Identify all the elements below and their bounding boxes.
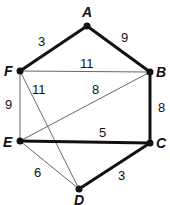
weight-F-E: 9 <box>5 97 12 112</box>
edge-F-B <box>20 71 150 72</box>
edge-E-C <box>20 141 150 143</box>
edge-D-C <box>79 143 150 189</box>
weight-A-B: 9 <box>121 30 128 45</box>
node-label-E: E <box>3 134 13 150</box>
weight-D-C: 3 <box>118 168 125 183</box>
node-E <box>17 138 24 145</box>
node-label-F: F <box>4 63 13 79</box>
node-label-A: A <box>81 4 92 20</box>
node-label-B: B <box>156 64 166 80</box>
node-C <box>147 140 154 147</box>
weight-F-B: 11 <box>80 56 94 71</box>
node-B <box>147 69 154 76</box>
weight-E-D: 6 <box>34 165 41 180</box>
node-A <box>84 23 91 30</box>
edge-E-D <box>20 141 79 189</box>
weight-F-A: 3 <box>38 34 45 49</box>
graph-diagram: A B C D E F 3 9 11 11 8 9 8 5 6 3 <box>0 0 170 205</box>
weight-E-C: 5 <box>99 125 106 140</box>
weight-F-D: 11 <box>32 82 46 97</box>
edge-F-D <box>20 71 79 189</box>
weight-B-C: 8 <box>158 100 165 115</box>
node-F <box>17 68 24 75</box>
node-label-C: C <box>156 135 167 151</box>
weight-E-B: 8 <box>92 82 99 97</box>
node-label-D: D <box>74 192 84 205</box>
edge-F-A <box>20 26 87 71</box>
edge-A-B <box>87 26 150 72</box>
